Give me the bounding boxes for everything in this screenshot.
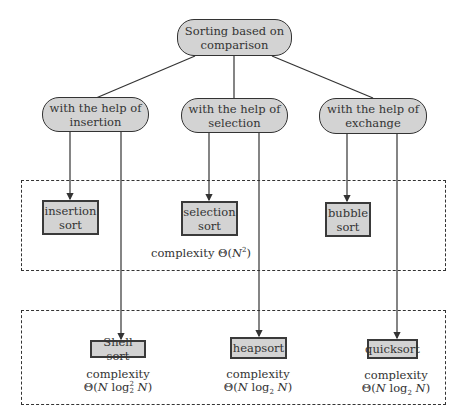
edge-root-exchange xyxy=(272,56,373,98)
category-label-line1: with the help of xyxy=(50,101,142,115)
algorithm-label-line2: sort xyxy=(45,218,97,232)
category-label-line2: selection xyxy=(189,116,281,130)
category-label-line2: insertion xyxy=(50,115,142,129)
category-insertion-node: with the help of insertion xyxy=(42,97,149,132)
algorithm-label-line1: bubble xyxy=(328,206,368,220)
algorithm-label-line2: sort xyxy=(328,220,368,234)
edge-root-insertion xyxy=(96,56,195,98)
quicksort-node: quicksort xyxy=(367,339,418,359)
quadratic-complexity-label: complexity Θ(N2) xyxy=(150,247,252,260)
category-exchange-node: with the help of exchange xyxy=(319,98,427,134)
bubble-sort-node: bubble sort xyxy=(325,202,371,237)
heapsort-complexity: complexity Θ(N log2 N) xyxy=(218,368,298,394)
root-label-line1: Sorting based on xyxy=(185,24,284,38)
category-label-line2: exchange xyxy=(327,116,419,130)
shell-sort-complexity: complexity Θ(N log22 N) xyxy=(80,368,156,395)
quicksort-complexity: complexity Θ(N log2 N) xyxy=(356,369,436,395)
category-label-line1: with the help of xyxy=(327,102,419,116)
root-label-line2: comparison xyxy=(185,38,284,52)
algorithm-label-line2: sort xyxy=(183,219,235,233)
root-node: Sorting based on comparison xyxy=(177,19,292,56)
selection-sort-node: selection sort xyxy=(181,201,238,236)
algorithm-label-line1: selection xyxy=(183,205,235,219)
category-label-line1: with the help of xyxy=(189,102,281,116)
shell-sort-node: Shell sort xyxy=(90,340,146,358)
category-selection-node: with the help of selection xyxy=(181,98,288,133)
insertion-sort-node: insertion sort xyxy=(42,200,99,235)
heapsort-node: heapsort xyxy=(230,337,287,359)
algorithm-label-line1: insertion xyxy=(45,204,97,218)
